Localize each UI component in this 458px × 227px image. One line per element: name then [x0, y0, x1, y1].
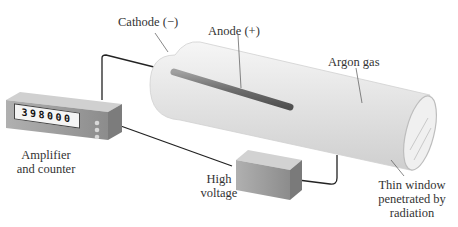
label-amplifier-counter: Amplifier and counter	[6, 148, 86, 176]
gas-tube	[150, 42, 443, 173]
label-argon-gas: Argon gas	[328, 55, 380, 69]
label-cathode: Cathode (−)	[118, 15, 178, 29]
label-thin-window: Thin window penetrated by radiation	[370, 178, 454, 220]
wire-hv-to-tube	[298, 155, 337, 184]
wire-counter-to-hv	[118, 125, 232, 166]
high-voltage-box	[236, 150, 302, 200]
label-high-voltage: High voltage	[194, 172, 244, 200]
label-anode: Anode (+)	[208, 24, 260, 38]
